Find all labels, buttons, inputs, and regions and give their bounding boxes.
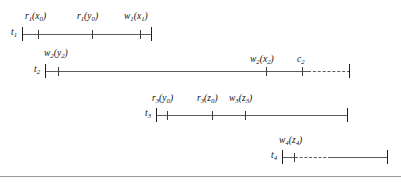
timeline-event-label-r1(x0): r1(x0) — [25, 12, 46, 22]
timeline-start-cap-t4 — [282, 150, 283, 164]
timeline-end-cap-t1 — [151, 27, 152, 41]
timeline-event-label-w1(x1): w1(x1) — [124, 12, 148, 22]
timeline-row-label-t3: t3 — [145, 109, 151, 119]
timeline-event-label-w3(z3): w3(z3) — [229, 94, 252, 104]
timeline-tick-w4(z4) — [294, 153, 295, 162]
timeline-axis-t3 — [156, 115, 348, 116]
timeline-axis-t1 — [22, 34, 152, 35]
timeline-start-cap-t1 — [22, 27, 23, 41]
timeline-tick-w3(z3) — [245, 111, 246, 120]
timeline-event-label-w2(y2): w2(y2) — [44, 49, 68, 59]
timeline-event-label-w2(x2): w2(x2) — [250, 55, 274, 65]
timeline-tick-w1(x1) — [140, 30, 141, 39]
timeline-tick-c2 — [302, 67, 303, 76]
timeline-event-label-r3(z0): r3(z0) — [197, 94, 218, 104]
timeline-axis-dashed-t4 — [295, 157, 331, 158]
timeline-end-cap-t2 — [349, 64, 350, 78]
timeline-tick-r1(y0) — [92, 30, 93, 39]
figure-baseline-rule — [0, 176, 401, 177]
timeline-event-label-r1(y0): r1(y0) — [77, 12, 98, 22]
timeline-end-cap-t4 — [387, 150, 388, 164]
timeline-axis-dashed-t2 — [308, 71, 350, 72]
timeline-figure: t1r1(x0)r1(y0)w1(x1)t2w2(y2)w2(x2)c2t3r3… — [0, 0, 401, 183]
timeline-row-label-t1: t1 — [11, 28, 17, 38]
timeline-start-cap-t3 — [156, 108, 157, 122]
timeline-tick-r3(z0) — [212, 111, 213, 120]
timeline-tick-w2(x2) — [266, 67, 267, 76]
timeline-row-label-t4: t4 — [271, 151, 277, 161]
timeline-tick-w2(y2) — [58, 67, 59, 76]
timeline-end-cap-t3 — [347, 108, 348, 122]
timeline-event-label-c2: c2 — [297, 55, 305, 65]
timeline-tick-r3(y0) — [167, 111, 168, 120]
timeline-event-label-w4(z4): w4(z4) — [279, 136, 302, 146]
timeline-axis-t2 — [45, 71, 308, 72]
timeline-row-label-t2: t2 — [34, 65, 40, 75]
timeline-event-label-r3(y0): r3(y0) — [152, 94, 173, 104]
timeline-tick-r1(x0) — [38, 30, 39, 39]
timeline-start-cap-t2 — [45, 64, 46, 78]
